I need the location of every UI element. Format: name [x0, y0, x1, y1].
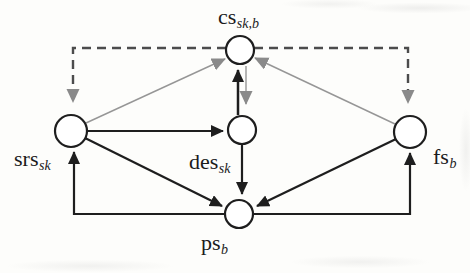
edge-ps-to-fs-elbow [253, 153, 410, 214]
diagram-canvas: cssk,b srssk dessk fsb psb [0, 0, 470, 273]
node-label-ps: psb [201, 232, 228, 257]
node-cs [226, 36, 254, 64]
node-des [228, 116, 256, 144]
edge-srs-to-cs-gray [86, 59, 225, 123]
node-srs [55, 115, 87, 147]
node-label-srs: srssk [14, 148, 51, 173]
edge-cs-to-fs-dashed [254, 48, 408, 103]
node-fs [394, 116, 426, 148]
edge-fs-to-ps-black [257, 139, 396, 206]
node-label-cs: cssk,b [218, 6, 259, 31]
node-ps [225, 200, 253, 228]
node-label-des: dessk [189, 151, 231, 176]
graph-svg [0, 0, 470, 273]
edge-fs-to-cs-gray [255, 58, 395, 124]
node-label-fs: fsb [433, 146, 456, 171]
